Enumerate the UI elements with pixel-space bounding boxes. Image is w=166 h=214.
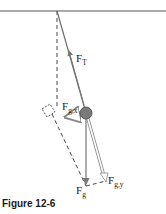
gravity-y-arrowhead — [100, 173, 108, 182]
dashed-construction-2 — [86, 181, 106, 186]
pendulum-force-diagram: FT Fg,x Fg,y Fg — [0, 0, 166, 214]
tension-label: FT — [76, 52, 87, 67]
gravity-x-label: Fg,x — [62, 100, 78, 115]
gravity-label: Fg — [76, 184, 86, 199]
right-angle-marker — [42, 104, 55, 117]
dashed-construction-1 — [52, 114, 86, 186]
figure-caption: Figure 12-6 — [2, 198, 55, 209]
pendulum-bob — [80, 107, 92, 119]
gravity-y-label: Fg,y — [108, 174, 124, 189]
